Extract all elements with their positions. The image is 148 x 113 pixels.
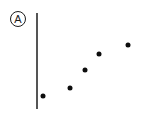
data-point bbox=[97, 52, 102, 57]
data-point bbox=[126, 43, 131, 48]
figure-root: A bbox=[0, 0, 148, 113]
data-point bbox=[41, 94, 46, 99]
data-point bbox=[83, 68, 88, 73]
data-point bbox=[68, 86, 73, 91]
scatter-plot-area bbox=[0, 0, 148, 113]
